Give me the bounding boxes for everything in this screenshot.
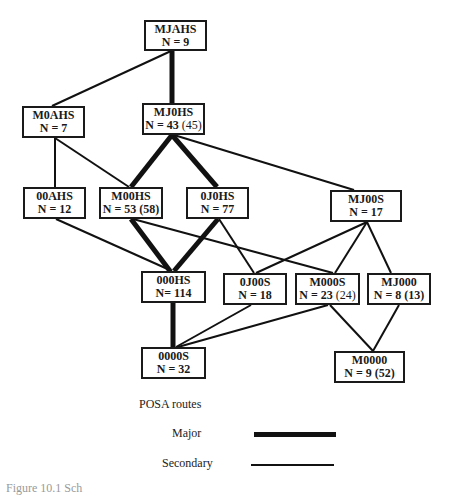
node-00AHS: 00AHSN = 12 — [23, 187, 86, 219]
node-count-value: N = 53 (58) — [103, 202, 160, 216]
node-M00HS: M00HSN = 53 (58) — [99, 187, 163, 219]
edge-MJ000-M0000-secondary — [373, 305, 399, 351]
node-0000S: 0000SN = 32 — [141, 347, 206, 379]
edge-0J0HS-0J00S-secondary — [219, 219, 254, 273]
node-M0000: M0000N = 9 (52) — [334, 351, 405, 383]
node-count-value: N = 17 — [349, 205, 383, 219]
node-count: N = 77 — [188, 203, 247, 216]
edge-00AHS-000HS-secondary — [56, 219, 172, 271]
edge-MJ0HS-0J0HS-major — [172, 135, 217, 187]
node-count-value: N = 23 — [299, 288, 333, 302]
node-count: N = 32 — [143, 363, 204, 376]
node-count: N = 43 (45) — [144, 119, 203, 132]
node-count: N = 23 (24) — [297, 289, 358, 302]
edge-MJ0HS-MJ00S-secondary — [174, 135, 354, 190]
legend-secondary-line — [251, 464, 334, 466]
edge-MJ0HS-M00HS-major — [131, 135, 172, 187]
node-count: N = 8 (13) — [369, 289, 429, 302]
edge-M000S-M0000-secondary — [330, 305, 373, 351]
node-count-paren: (45) — [179, 118, 202, 132]
node-count: N = 17 — [332, 206, 400, 219]
edge-0J00S-0000S-secondary — [176, 305, 251, 347]
node-count-value: N = 9 (52) — [344, 366, 395, 380]
node-count-value: N = 9 — [162, 35, 190, 49]
node-0J0HS: 0J0HSN = 77 — [186, 187, 249, 219]
node-count-value: N = 77 — [201, 202, 235, 216]
node-count-paren: (24) — [333, 288, 356, 302]
edge-M000S-0000S-secondary — [178, 305, 328, 347]
edge-0J0HS-000HS-major — [174, 219, 218, 271]
node-MJAHS: MJAHSN = 9 — [144, 20, 207, 51]
node-count-value: N = 18 — [238, 288, 272, 302]
node-count: N = 53 (58) — [101, 203, 161, 216]
figure-caption: Figure 10.1 Sch — [6, 481, 82, 496]
node-000HS: 000HSN= 114 — [141, 271, 206, 303]
edge-MJ00S-MJ000-secondary — [367, 222, 391, 273]
node-count-value: N = 32 — [157, 362, 191, 376]
edge-MJAHS-M0AHS-secondary — [52, 51, 171, 106]
node-MJ00S: MJ00SN = 17 — [330, 190, 402, 222]
node-MJ0HS: MJ0HSN = 43 (45) — [142, 103, 205, 135]
legend-secondary-label: Secondary — [162, 456, 213, 471]
node-count-value: N= 114 — [156, 286, 192, 300]
legend-major-line — [254, 432, 336, 437]
node-count-value: N = 43 — [145, 118, 179, 132]
legend-major-label: Major — [172, 426, 201, 441]
node-MJ000: MJ000N = 8 (13) — [367, 273, 431, 305]
node-count: N = 12 — [25, 203, 84, 216]
node-count: N = 18 — [225, 289, 285, 302]
legend-title: POSA routes — [139, 397, 201, 412]
node-count: N = 7 — [24, 122, 83, 135]
edge-M0AHS-M00HS-secondary — [55, 138, 129, 187]
node-count-value: N = 8 (13) — [374, 288, 425, 302]
node-count-value: N = 7 — [40, 121, 68, 135]
node-M0AHS: M0AHSN = 7 — [22, 106, 85, 138]
node-count-value: N = 12 — [38, 202, 72, 216]
node-count: N = 9 — [146, 36, 205, 49]
node-M000S: M000SN = 23 (24) — [295, 273, 360, 305]
node-count: N = 9 (52) — [336, 367, 403, 380]
node-count: N= 114 — [143, 287, 204, 300]
node-0J00S: 0J00SN = 18 — [223, 273, 287, 305]
